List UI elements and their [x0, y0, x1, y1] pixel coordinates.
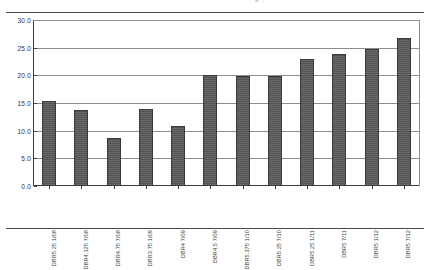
y-axis-tick-label: 0.0: [3, 183, 31, 190]
y-axis: 0.05.010.015.020.025.030.0: [0, 20, 31, 186]
y-axis-tick-label: 15.0: [3, 100, 31, 107]
y-axis-tick-label: 25.0: [3, 44, 31, 51]
x-axis-tick-label: DBR4.5 7/09: [213, 230, 219, 263]
x-axis-tick-label: DBR5.375 1/10: [245, 230, 251, 270]
clipped-header-text: g ,: [255, 0, 405, 4]
bar: [332, 54, 346, 186]
y-axis-tick-label: 10.0: [3, 127, 31, 134]
x-axis-tick-label: DBR5.25 1/08: [52, 230, 58, 266]
x-axis-tick-label: DBR4 7/09: [181, 230, 187, 258]
bar-series: [33, 20, 420, 186]
x-axis-labels: DBR5.25 1/08DBR4.125 7/08DBR4.75 7/08DBR…: [33, 188, 420, 232]
bar: [42, 101, 56, 186]
x-axis-tick-label: DBR4.75 7/08: [116, 230, 122, 266]
x-axis-tick-label: DBR3.75 1/09: [148, 230, 154, 266]
bar: [397, 38, 411, 186]
bar: [107, 138, 121, 186]
x-axis-tick-label: DBR5 1/12: [374, 230, 380, 258]
y-axis-tick-label: 20.0: [3, 72, 31, 79]
bar: [203, 75, 217, 186]
y-axis-tick-label: 30.0: [3, 17, 31, 24]
x-axis-tick-label: DBR5 7/11: [342, 230, 348, 258]
page-rule-top: [6, 12, 424, 13]
bar: [139, 109, 153, 186]
bar: [171, 126, 185, 186]
x-axis-tick-label: DBR4.125 7/08: [84, 230, 90, 270]
y-axis-tick-label: 5.0: [3, 155, 31, 162]
bar-chart: 0.05.010.015.020.025.030.0 DBR5.25 1/08D…: [0, 16, 430, 228]
x-axis-tick-label: DBR5.25 7/10: [277, 230, 283, 266]
bar: [300, 59, 314, 186]
bar: [74, 110, 88, 186]
x-axis-tick-label: DBR5.25 1/11: [310, 230, 316, 266]
bar: [365, 49, 379, 186]
bar: [236, 76, 250, 186]
x-axis-tick-label: DBR5 7/12: [406, 230, 412, 258]
bar: [268, 76, 282, 186]
